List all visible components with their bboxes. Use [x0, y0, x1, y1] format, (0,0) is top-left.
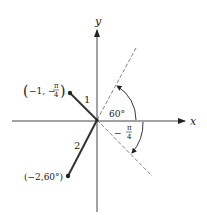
segment-2-label: 2: [74, 140, 80, 151]
ray-minus-pi-over-4: [97, 120, 152, 176]
polar-diagram: x y 1 2 ( −1, − π 4 ) (−2,60°) 60° − π 4: [0, 0, 207, 215]
svg-text:(: (: [23, 83, 28, 99]
point-2-coord-label: (−2,60°): [24, 172, 63, 182]
origin-dot: [95, 118, 98, 121]
x-axis-label: x: [190, 115, 197, 128]
segment-1-label: 1: [84, 94, 90, 105]
svg-text:−: −: [114, 128, 122, 138]
svg-text:): ): [60, 83, 65, 99]
segment-2: [68, 120, 97, 176]
svg-text:π: π: [127, 124, 132, 132]
point-1: [68, 91, 72, 95]
svg-text:4: 4: [54, 91, 59, 99]
point-1-coord-label: ( −1, − π 4 ): [23, 82, 65, 99]
svg-text:−1, −: −1, −: [29, 86, 56, 96]
svg-text:π: π: [54, 82, 59, 90]
svg-text:4: 4: [127, 133, 132, 141]
point-2: [66, 174, 70, 178]
arc-minus-pi-over-4: [132, 122, 143, 153]
angle-minus-pi-over-4-label: − π 4: [114, 124, 132, 141]
diagram-canvas: x y 1 2 ( −1, − π 4 ) (−2,60°) 60° − π 4: [0, 0, 207, 215]
y-axis-label: y: [94, 15, 102, 28]
angle-60-label: 60°: [109, 109, 125, 119]
